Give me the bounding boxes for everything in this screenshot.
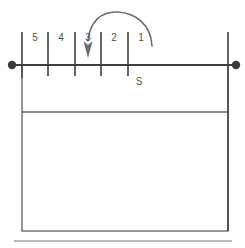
interval-label-3: 3 (85, 32, 91, 43)
diagram-root: 5 4 3 2 1 S (0, 0, 245, 248)
interval-label-1: 1 (138, 32, 144, 43)
surface-line-right-endpoint-dot (232, 61, 240, 69)
curved-direction-arrowhead-icon (84, 41, 93, 58)
interval-label-5: 5 (32, 32, 38, 43)
interval-label-2: 2 (111, 32, 117, 43)
region-label-s: S (136, 76, 143, 87)
surface-line-left-endpoint-dot (8, 61, 16, 69)
section-body-box (22, 65, 228, 231)
diagram-canvas: 5 4 3 2 1 S (0, 0, 245, 248)
interval-label-4: 4 (58, 32, 64, 43)
